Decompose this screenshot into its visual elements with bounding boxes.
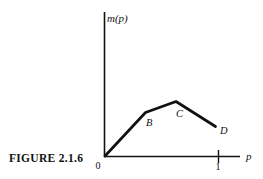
x-tick-label-1: 1 [216, 161, 221, 172]
figure-container: m(p) p 0 1 B C D FIGURE 2.1.6 [0, 0, 263, 179]
figure-caption: FIGURE 2.1.6 [9, 153, 83, 165]
curve-label-d: D [219, 125, 228, 136]
y-axis-label: m(p) [107, 12, 128, 25]
curve-m-of-p [105, 102, 216, 157]
curve-label-b: B [146, 117, 153, 128]
curve-label-c: C [176, 108, 184, 119]
x-axis-label: p [245, 150, 252, 162]
origin-label: 0 [96, 160, 101, 171]
